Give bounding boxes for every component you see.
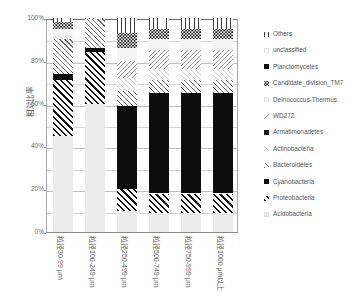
- bar-segment[interactable]: [181, 39, 201, 50]
- legend-item-wd272[interactable]: WD272: [264, 108, 359, 124]
- legend-item-planc[interactable]: Planctomycetes: [264, 59, 359, 75]
- bar-segment[interactable]: [213, 80, 233, 93]
- bar-segment[interactable]: [181, 18, 201, 29]
- bar-segment[interactable]: [149, 80, 169, 93]
- bar-segment[interactable]: [53, 80, 73, 136]
- legend-swatch-icon: [264, 81, 269, 86]
- x-tick-label: 粒径100-249 μm: [86, 236, 98, 302]
- stacked-bar[interactable]: [181, 20, 201, 232]
- bar-segment[interactable]: [181, 213, 201, 232]
- bar-segment[interactable]: [181, 80, 201, 93]
- legend-item-others[interactable]: Others: [264, 26, 359, 42]
- bar-segment[interactable]: [181, 93, 201, 194]
- y-axis-ticks: 100%80%60%40%20%0%: [0, 19, 44, 233]
- bar-segment[interactable]: [213, 194, 233, 213]
- bar-segment[interactable]: [181, 194, 201, 213]
- bar-segment[interactable]: [213, 69, 233, 80]
- bar-segment[interactable]: [213, 39, 233, 50]
- legend-label: Proteobacteria: [273, 195, 315, 201]
- stacked-bar[interactable]: [213, 20, 233, 232]
- legend-label: Actinobacteria: [273, 146, 314, 152]
- legend-swatch-icon: [264, 130, 269, 135]
- bar-segment[interactable]: [117, 189, 137, 210]
- legend-item-proteo[interactable]: Proteobacteria: [264, 190, 359, 206]
- stacked-bar[interactable]: [117, 20, 137, 232]
- legend-item-cyano[interactable]: Cyanobacteria: [264, 174, 359, 190]
- bar-segment[interactable]: [53, 18, 73, 22]
- bar-segment[interactable]: [149, 39, 169, 50]
- legend-label: Acidobacteria: [273, 211, 312, 217]
- x-tick-label: 粒径500-749 μm: [150, 236, 162, 302]
- bar-segment[interactable]: [181, 50, 201, 69]
- x-tick-label: 粒径1000 μm以上: [214, 236, 226, 302]
- legend-item-tm7[interactable]: Candidate_division_TM7: [264, 75, 359, 91]
- bar-segment[interactable]: [53, 39, 73, 73]
- legend-swatch-icon: [264, 196, 269, 201]
- bar-segment[interactable]: [149, 29, 169, 40]
- bar-segment[interactable]: [53, 29, 73, 36]
- legend-item-deino[interactable]: Deinococcus-Thermus: [264, 92, 359, 108]
- legend-swatch-icon: [264, 179, 269, 184]
- bar-segment[interactable]: [213, 18, 233, 29]
- bar-segment[interactable]: [149, 194, 169, 213]
- bar-segment[interactable]: [149, 213, 169, 232]
- bar-segment[interactable]: [213, 29, 233, 40]
- y-tick-label: 60%: [0, 101, 48, 108]
- legend-label: Bacteroidetes: [273, 162, 312, 168]
- legend-item-armati[interactable]: Armatimonadetes: [264, 124, 359, 140]
- y-tick-mark: [44, 233, 46, 234]
- legend-swatch-icon: [264, 114, 269, 119]
- legend-swatch-icon: [264, 163, 269, 168]
- stacked-bar[interactable]: [53, 20, 73, 232]
- bar-segment[interactable]: [53, 74, 73, 80]
- bar-segment[interactable]: [149, 93, 169, 194]
- bar-segment[interactable]: [117, 211, 137, 232]
- plot-area: [46, 19, 238, 233]
- bar-segment[interactable]: [53, 22, 73, 28]
- bar-segment[interactable]: [117, 91, 137, 106]
- legend-label: unclassified: [273, 47, 306, 53]
- bar-segment[interactable]: [85, 48, 105, 52]
- bar-segment[interactable]: [181, 29, 201, 40]
- bar-segment[interactable]: [181, 69, 201, 80]
- stacked-bar[interactable]: [149, 20, 169, 232]
- bar-segment[interactable]: [117, 48, 137, 61]
- x-tick-label: 粒径250-499 μm: [118, 236, 130, 302]
- legend-item-bacteroid[interactable]: Bacteroidetes: [264, 157, 359, 173]
- bar-segment[interactable]: [117, 78, 137, 91]
- bar-segment[interactable]: [117, 106, 137, 189]
- chart-legend: OthersunclassifiedPlanctomycetesCandidat…: [264, 26, 359, 223]
- stacked-bar-chart: 相対比率 100%80%60%40%20%0% 粒径30-99 μm粒径100-…: [0, 0, 359, 302]
- bar-segment[interactable]: [53, 136, 73, 232]
- x-axis-labels: 粒径30-99 μm粒径100-249 μm粒径250-499 μm粒径500-…: [46, 236, 238, 302]
- bar-segment[interactable]: [53, 36, 73, 39]
- bar-segment[interactable]: [213, 93, 233, 194]
- legend-item-unclass[interactable]: unclassified: [264, 42, 359, 58]
- legend-item-acido[interactable]: Acidobacteria: [264, 206, 359, 222]
- bar-segment[interactable]: [85, 104, 105, 232]
- bar-segment[interactable]: [149, 50, 169, 69]
- legend-label: Planctomycetes: [273, 64, 318, 70]
- legend-swatch-icon: [264, 64, 269, 69]
- bar-segment[interactable]: [117, 33, 137, 48]
- bar-segment[interactable]: [213, 50, 233, 69]
- legend-swatch-icon: [264, 32, 269, 37]
- legend-swatch-icon: [264, 146, 269, 151]
- bar-segment[interactable]: [85, 52, 105, 103]
- bar-segment[interactable]: [85, 18, 105, 19]
- bar-segment[interactable]: [85, 19, 105, 48]
- bar-segment[interactable]: [117, 18, 137, 33]
- legend-swatch-icon: [264, 97, 269, 102]
- bar-series-group: [47, 20, 237, 232]
- bar-segment[interactable]: [117, 61, 137, 78]
- legend-label: Deinococcus-Thermus: [273, 97, 337, 103]
- bar-segment[interactable]: [213, 213, 233, 232]
- stacked-bar[interactable]: [85, 20, 105, 232]
- bar-segment[interactable]: [149, 18, 169, 29]
- y-tick-label: 0%: [0, 229, 48, 236]
- legend-label: Candidate_division_TM7: [273, 80, 343, 86]
- legend-label: Cyanobacteria: [273, 179, 314, 185]
- legend-item-actino[interactable]: Actinobacteria: [264, 141, 359, 157]
- bar-segment[interactable]: [149, 69, 169, 80]
- legend-label: Others: [273, 31, 292, 37]
